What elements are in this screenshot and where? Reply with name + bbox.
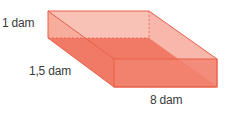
- label-length: 8 dam: [150, 93, 182, 107]
- front-face: [114, 59, 217, 87]
- label-height: 1 dam: [2, 16, 34, 30]
- label-depth: 1,5 dam: [29, 64, 71, 78]
